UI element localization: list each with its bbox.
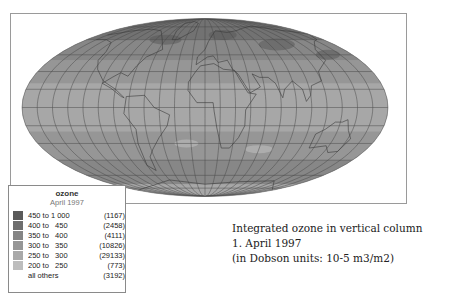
legend-swatch (13, 261, 23, 270)
legend-title: ozone (9, 189, 125, 198)
legend-item: 450 to 1 000 (1167) (9, 210, 125, 220)
legend-swatch (13, 241, 23, 250)
legend-count: (4111) (91, 231, 125, 240)
legend-count: (1167) (91, 211, 125, 220)
legend-range: 300 to 350 (28, 241, 91, 250)
legend-count: (2458) (91, 221, 125, 230)
legend-subtitle: April 1997 (9, 198, 125, 207)
caption-line-1: Integrated ozone in vertical column (232, 221, 449, 236)
caption-line-3: (in Dobson units: 10-5 m3/m2) (232, 251, 449, 266)
ozone-high-patch (259, 38, 295, 50)
legend-count: (29133) (91, 251, 125, 260)
legend-swatch (13, 221, 23, 230)
legend-range: 400 to 450 (28, 221, 91, 230)
legend-count: (3192) (91, 271, 125, 280)
legend-swatch (13, 251, 23, 260)
legend-rows: 450 to 1 000 (1167) 400 to 450 (2458) 35… (9, 210, 125, 280)
legend-range: 250 to 300 (28, 251, 91, 260)
legend-swatch (13, 231, 23, 240)
ozone-band (0, 160, 449, 184)
legend-item: 200 to 250 (773) (9, 260, 125, 270)
ozone-band (0, 40, 449, 61)
map-caption: Integrated ozone in vertical column 1. A… (232, 221, 449, 266)
legend-item: 400 to 450 (2458) (9, 220, 125, 230)
legend-item: all others (3192) (9, 270, 125, 280)
caption-line-2: 1. April 1997 (232, 236, 449, 251)
legend-item: 350 to 400 (4111) (9, 230, 125, 240)
legend-count: (10826) (91, 241, 125, 250)
legend-range: 200 to 250 (28, 261, 91, 270)
legend-item: 300 to 350 (10826) (9, 240, 125, 250)
legend-count: (773) (91, 261, 125, 270)
legend-range: 350 to 400 (28, 231, 91, 240)
legend-swatch (13, 211, 23, 220)
legend-range: all others (28, 271, 91, 280)
legend-range: 450 to 1 000 (28, 211, 91, 220)
legend-item: 250 to 300 (29133) (9, 250, 125, 260)
legend: ozone April 1997 450 to 1 000 (1167) 400… (8, 185, 126, 293)
legend-swatch (13, 271, 23, 280)
